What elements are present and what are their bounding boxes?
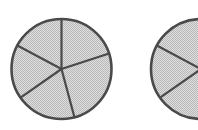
pie-circle-right: [151, 19, 198, 119]
pie-fill-2: [151, 19, 198, 119]
figure-canvas: [0, 0, 198, 130]
pie-circle-left: [12, 19, 112, 119]
fraction-circles-diagram: [0, 0, 198, 130]
